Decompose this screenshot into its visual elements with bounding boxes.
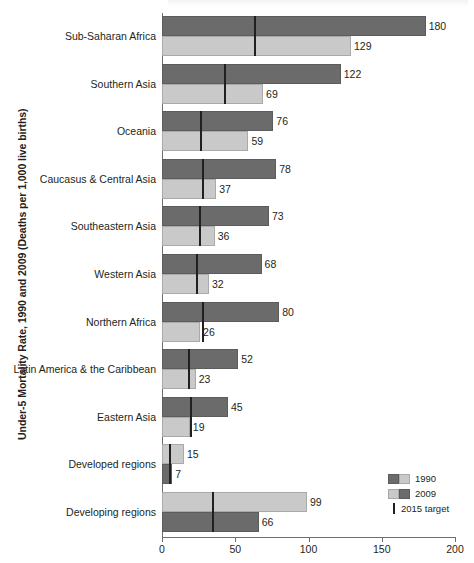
bar-value-label: 52 (241, 353, 253, 365)
legend-label: 1990 (415, 473, 436, 484)
target-marker-2015 (212, 492, 214, 532)
bar-value-label: 26 (203, 326, 215, 338)
bar-row: Oceania7659 (162, 111, 455, 151)
x-tick-label: 200 (446, 543, 464, 555)
bar-1990: 52 (162, 349, 238, 369)
bar-1990: 180 (162, 16, 426, 36)
bar-value-label: 78 (279, 163, 291, 175)
bar-value-label: 129 (354, 40, 372, 52)
bar-value-label: 36 (218, 230, 230, 242)
bar-value-label: 23 (199, 373, 211, 385)
bar-value-label: 59 (251, 135, 263, 147)
bar-1990: 68 (162, 254, 262, 274)
category-label: Latin America & the Caribbean (14, 363, 156, 375)
legend-rows: 199020092015 target (388, 471, 449, 516)
under-5-mortality-bar-chart: Under-5 Mortality Rate, 1990 and 2009 (D… (0, 0, 474, 563)
bar-row: Western Asia6832 (162, 254, 455, 294)
bar-2009: 26 (162, 322, 200, 342)
bar-2009: 32 (162, 274, 209, 294)
bar-row: Caucasus & Central Asia7837 (162, 159, 455, 199)
bar-value-label: 66 (262, 516, 274, 528)
bar-2009: 59 (162, 131, 248, 151)
bar-2009: 19 (162, 417, 190, 437)
bar-value-label: 15 (187, 448, 199, 460)
bar-row: Southern Asia12269 (162, 64, 455, 104)
x-tick-mark (309, 537, 310, 542)
target-marker-2015 (254, 16, 256, 56)
bar-value-label: 69 (266, 88, 278, 100)
chart-legend: 199020092015 target (388, 471, 449, 516)
bar-value-label: 68 (265, 258, 277, 270)
target-marker-2015 (200, 111, 202, 151)
category-label: Oceania (117, 125, 156, 137)
x-tick-label: 50 (229, 543, 241, 555)
bar-2009: 23 (162, 369, 196, 389)
category-label: Eastern Asia (97, 411, 156, 423)
legend-swatch-light (399, 474, 410, 484)
target-marker-2015 (169, 444, 171, 484)
x-tick-label: 0 (159, 543, 165, 555)
bar-value-label: 32 (212, 278, 224, 290)
bar-value-label: 19 (193, 421, 205, 433)
legend-label: 2009 (415, 488, 436, 499)
category-label: Southeastern Asia (71, 220, 156, 232)
x-tick-mark (235, 537, 236, 542)
y-axis-title: Under-5 Mortality Rate, 1990 and 2009 (D… (16, 108, 28, 440)
category-label: Developed regions (68, 458, 156, 470)
bar-value-label: 99 (310, 496, 322, 508)
bar-2009: 37 (162, 179, 216, 199)
bar-row: Southeastern Asia7336 (162, 206, 455, 246)
target-marker-2015 (224, 64, 226, 104)
bar-1990: 122 (162, 64, 341, 84)
bar-1990: 45 (162, 397, 228, 417)
category-label: Northern Africa (86, 316, 156, 328)
target-marker-2015 (202, 159, 204, 199)
category-label: Caucasus & Central Asia (40, 173, 156, 185)
legend-row: 2009 (388, 486, 449, 501)
bar-2009: 129 (162, 36, 351, 56)
bar-value-label: 180 (429, 20, 447, 32)
target-marker-2015 (188, 349, 190, 389)
category-label: Sub-Saharan Africa (65, 30, 156, 42)
legend-row: 1990 (388, 471, 449, 486)
bar-1990: 73 (162, 206, 269, 226)
x-tick-mark (382, 537, 383, 542)
bar-value-label: 73 (272, 210, 284, 222)
bar-row: Latin America & the Caribbean5223 (162, 349, 455, 389)
bar-2009: 69 (162, 84, 263, 104)
bar-1990: 99 (162, 492, 307, 512)
category-label: Western Asia (94, 268, 156, 280)
legend-swatch-light (388, 489, 399, 499)
x-tick-label: 150 (373, 543, 391, 555)
legend-swatch-dark (399, 489, 410, 499)
x-tick-label: 100 (300, 543, 318, 555)
bar-row: Northern Africa8026 (162, 302, 455, 342)
legend-label: 2015 target (401, 503, 449, 514)
x-tick-mark (455, 537, 456, 542)
target-marker-2015 (202, 302, 204, 342)
bar-value-label: 76 (276, 115, 288, 127)
bar-2009: 36 (162, 226, 215, 246)
x-tick-mark (162, 537, 163, 542)
bar-1990: 78 (162, 159, 276, 179)
bar-row: Sub-Saharan Africa180129 (162, 16, 455, 56)
bar-1990: 15 (162, 444, 184, 464)
legend-row: 2015 target (388, 501, 449, 516)
target-marker-2015 (199, 206, 201, 246)
bar-row: Eastern Asia4519 (162, 397, 455, 437)
bar-value-label: 122 (344, 68, 362, 80)
y-axis-title-container: Under-5 Mortality Rate, 1990 and 2009 (D… (0, 0, 22, 540)
bar-value-label: 80 (282, 306, 294, 318)
scan-artifact-band (168, 0, 468, 7)
bar-2009: 66 (162, 512, 259, 532)
bar-1990: 80 (162, 302, 279, 322)
bar-value-label: 7 (175, 468, 181, 480)
legend-target-tick-icon (393, 503, 395, 514)
bar-1990: 76 (162, 111, 273, 131)
bar-value-label: 45 (231, 401, 243, 413)
category-label: Developing regions (66, 506, 156, 518)
plot-area: 050100150200 Sub-Saharan Africa180129Sou… (162, 13, 455, 537)
target-marker-2015 (190, 397, 192, 437)
bar-value-label: 37 (219, 183, 231, 195)
target-marker-2015 (196, 254, 198, 294)
